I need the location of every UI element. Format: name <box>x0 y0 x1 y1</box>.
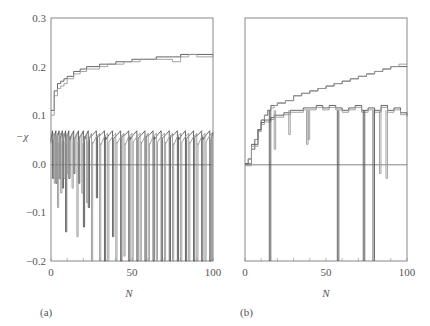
panel-b: 050100 N (b) <box>240 18 416 319</box>
traces-b <box>245 64 407 261</box>
deep-drop <box>337 110 339 261</box>
panel-a: 0.30.20.10.0−0.1−0.2 050100 −χ N (a) <box>16 12 222 319</box>
y-tick-label: 0.3 <box>32 12 46 24</box>
shallow-drop <box>308 110 310 139</box>
x-tick-label: 0 <box>48 266 54 278</box>
deep-drop <box>269 110 271 261</box>
traces-a <box>51 54 213 261</box>
x-tick-label: 100 <box>205 266 222 278</box>
deep-drop <box>363 110 365 261</box>
y-tick-label: −0.1 <box>26 206 46 218</box>
figure: 0.30.20.10.0−0.1−0.2 050100 −χ N (a) 050… <box>0 0 430 326</box>
x-axis-title-b: N <box>321 287 330 299</box>
x-tick-label: 0 <box>242 266 248 278</box>
x-axis-title-a: N <box>124 287 133 299</box>
shallow-drop <box>274 110 276 149</box>
upper-curve-a <box>51 54 213 110</box>
y-tick-label: 0.0 <box>32 158 46 170</box>
x-tick-label: 50 <box>321 266 333 278</box>
x-tick-label: 50 <box>127 266 139 278</box>
panel-label-a: (a) <box>40 306 53 319</box>
panel-label-b: (b) <box>240 306 253 319</box>
upper-curve-a <box>51 54 213 115</box>
shallow-drop <box>386 110 388 178</box>
y-tick-label: 0.2 <box>32 61 46 73</box>
y-tick-label: 0.1 <box>32 109 46 121</box>
y-ticks-a: 0.30.20.10.0−0.1−0.2 <box>26 12 46 267</box>
y-tick-label: −0.2 <box>26 255 46 267</box>
deep-drop <box>373 110 375 261</box>
y-axis-title: −χ <box>16 130 29 142</box>
x-tick-label: 100 <box>399 266 416 278</box>
shallow-drop <box>379 110 381 173</box>
shallow-drop <box>289 110 291 134</box>
